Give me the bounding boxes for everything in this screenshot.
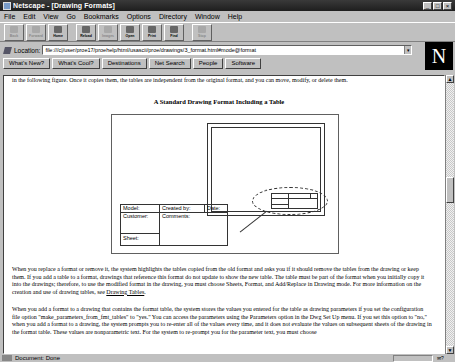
location-label: Location: bbox=[14, 47, 40, 54]
figure-title: A Standard Drawing Format Including a Ta… bbox=[4, 98, 434, 106]
cell-model: Model: bbox=[122, 205, 140, 212]
cell-comments: Comments: bbox=[161, 213, 190, 220]
window-controls: _ □ × bbox=[423, 2, 452, 10]
bookmark-quickfile-icon[interactable] bbox=[3, 47, 12, 54]
back-label: Back bbox=[10, 34, 18, 38]
net-search-button[interactable]: Net Search bbox=[149, 58, 191, 69]
home-button[interactable]: Home bbox=[48, 24, 68, 41]
para1-text: When you replace a format or remove it, … bbox=[12, 266, 424, 295]
directory-buttons-bar: What's New? What's Cool? Destinations Ne… bbox=[0, 57, 420, 70]
menu-directory[interactable]: Directory bbox=[159, 13, 187, 20]
para1-end: . bbox=[144, 289, 146, 295]
menu-options[interactable]: Options bbox=[127, 13, 151, 20]
location-dropdown-button[interactable]: ▾ bbox=[404, 46, 411, 54]
vertical-scrollbar[interactable]: ▲ ▼ bbox=[445, 75, 454, 354]
stop-icon bbox=[198, 26, 206, 33]
open-label: Open bbox=[126, 34, 135, 38]
forward-button[interactable]: Forward bbox=[26, 24, 46, 41]
cell-created-by: Created by: bbox=[161, 205, 190, 212]
back-button[interactable]: Back bbox=[4, 24, 24, 41]
menu-window[interactable]: Window bbox=[195, 13, 220, 20]
netscape-logo[interactable]: N bbox=[425, 42, 453, 70]
home-icon bbox=[54, 26, 62, 33]
page-content: in the following figure. Once it copies … bbox=[3, 75, 445, 354]
location-input[interactable]: file:///c|/user/proe17/proehelp/html/usa… bbox=[42, 45, 412, 55]
drawing-tables-link[interactable]: Drawing Tables bbox=[106, 289, 144, 295]
scroll-thumb[interactable] bbox=[446, 177, 454, 203]
whats-new-button[interactable]: What's New? bbox=[3, 58, 50, 69]
status-bar: Document: Done ✉? bbox=[0, 354, 455, 362]
scroll-down-button[interactable]: ▼ bbox=[446, 346, 454, 354]
cell-date: Date: bbox=[206, 205, 220, 212]
find-label: Find bbox=[170, 34, 177, 38]
status-text: Document: Done bbox=[15, 355, 393, 361]
software-button[interactable]: Software bbox=[225, 58, 261, 69]
forward-arrow-icon bbox=[32, 26, 40, 33]
progress-bar bbox=[393, 355, 433, 362]
reload-button[interactable]: Reload bbox=[76, 24, 96, 41]
reload-icon bbox=[82, 26, 90, 33]
cell-sheet: Sheet: bbox=[122, 235, 139, 242]
images-button[interactable]: Images bbox=[98, 24, 118, 41]
location-bar: Location: file:///c|/user/proe17/proehel… bbox=[0, 44, 420, 56]
netscape-app-icon[interactable] bbox=[3, 2, 11, 10]
drawing-format-figure: Model: Created by: Date: Customer: Comme… bbox=[111, 114, 339, 254]
location-value: file:///c|/user/proe17/proehelp/html/usa… bbox=[45, 47, 256, 53]
menu-edit[interactable]: Edit bbox=[23, 13, 35, 20]
add-format-paragraph: When you add a format to a drawing that … bbox=[12, 306, 432, 336]
reload-label: Reload bbox=[80, 34, 92, 38]
open-icon bbox=[126, 26, 134, 33]
open-button[interactable]: Open bbox=[120, 24, 140, 41]
find-icon bbox=[170, 26, 178, 33]
destinations-button[interactable]: Destinations bbox=[102, 58, 147, 69]
menu-help[interactable]: Help bbox=[228, 13, 242, 20]
print-button[interactable]: Print bbox=[142, 24, 162, 41]
highlight-ellipse bbox=[252, 187, 328, 215]
scroll-up-button[interactable]: ▲ bbox=[446, 75, 454, 83]
navigation-toolbar: Back Forward Home Reload Images Open Pri… bbox=[0, 22, 455, 42]
minimize-button[interactable]: _ bbox=[423, 2, 432, 10]
images-icon bbox=[104, 26, 112, 33]
menu-go[interactable]: Go bbox=[66, 13, 75, 20]
window-title: Netscape - [Drawing Formats] bbox=[13, 2, 115, 9]
back-arrow-icon bbox=[10, 26, 18, 33]
stop-label: Stop bbox=[198, 34, 206, 38]
cell-customer: Customer: bbox=[122, 213, 148, 220]
maximize-button[interactable]: □ bbox=[433, 2, 442, 10]
home-label: Home bbox=[53, 34, 63, 38]
menu-bar: File Edit View Go Bookmarks Options Dire… bbox=[0, 11, 455, 21]
print-icon bbox=[148, 26, 156, 33]
title-bar: Netscape - [Drawing Formats] _ □ × bbox=[0, 0, 455, 11]
title-block-table: Model: Created by: Date: Customer: Comme… bbox=[120, 204, 228, 246]
close-button[interactable]: × bbox=[443, 2, 452, 10]
replace-format-paragraph: When you replace a format or remove it, … bbox=[12, 266, 432, 296]
security-key-icon[interactable] bbox=[2, 355, 12, 361]
menu-bookmarks[interactable]: Bookmarks bbox=[84, 13, 119, 20]
images-label: Images bbox=[102, 34, 114, 38]
whats-cool-button[interactable]: What's Cool? bbox=[52, 58, 100, 69]
menu-file[interactable]: File bbox=[4, 13, 15, 20]
find-button[interactable]: Find bbox=[164, 24, 184, 41]
menu-view[interactable]: View bbox=[43, 13, 58, 20]
mail-icon[interactable]: ✉? bbox=[437, 355, 449, 361]
print-label: Print bbox=[148, 34, 156, 38]
intro-paragraph: in the following figure. Once it copies … bbox=[12, 77, 432, 85]
stop-button[interactable]: Stop bbox=[192, 24, 212, 41]
people-button[interactable]: People bbox=[193, 58, 224, 69]
forward-label: Forward bbox=[29, 34, 43, 38]
